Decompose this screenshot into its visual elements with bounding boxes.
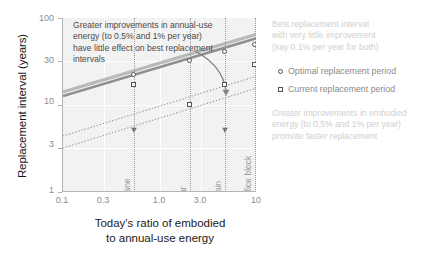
y-tick-mark-1 — [58, 192, 62, 193]
legend-circle-icon — [272, 69, 288, 74]
legend-label-optimal: Optimal replacement period — [288, 66, 396, 76]
x-tick-label-1.0: 1.0 — [139, 195, 179, 205]
legend-label-current: Current replacement period — [288, 84, 395, 94]
legend-item-current[interactable]: Current replacement period — [272, 80, 427, 98]
legend-square-icon — [272, 87, 288, 92]
marker-current-plane[interactable] — [131, 82, 136, 87]
annotation-annual-use-line-1: Greater improvements in annual-use — [73, 20, 248, 31]
legend-item-optimal[interactable]: Optimal replacement period — [272, 62, 427, 80]
y-tick-label-30: 30 — [28, 55, 54, 65]
x-tick-label-0.1: 0.1 — [42, 195, 82, 205]
y-axis-title: Replacement interval (years) — [16, 16, 28, 196]
annotation-annual-use-line-4: intervals — [73, 54, 248, 65]
y-tick-label-3: 3 — [28, 139, 54, 149]
marker-optimal-office-block[interactable] — [252, 42, 256, 47]
annotation-annual-use-energy: Greater improvements in annual-use energ… — [73, 20, 248, 66]
category-label-plane: Plane — [122, 178, 132, 192]
marker-current-train[interactable] — [222, 82, 227, 87]
x-tick-label-3.0: 3.0 — [180, 195, 220, 205]
category-label-train: Train — [213, 181, 223, 192]
marker-optimal-plane[interactable] — [131, 72, 136, 77]
x-tick-label-0.3: 0.3 — [83, 195, 123, 205]
category-label-office-block: Office block — [243, 156, 253, 192]
annotation-best-interval-line-3: (say 0.1% per year for both) — [272, 42, 422, 53]
x-tick-label-10: 10 — [236, 195, 276, 205]
category-label-car: Car — [178, 186, 188, 192]
y-tick-label-100: 100 — [28, 13, 54, 23]
annotation-embodied-line-1: Greater improvements in embodied — [272, 108, 422, 119]
line-current-1pct — [63, 88, 256, 148]
x-axis-title-line-2: to annual-use energy — [62, 231, 258, 246]
marker-current-car[interactable] — [187, 102, 192, 107]
annotation-annual-use-line-2: energy (to 0.5% and 1% per year) — [73, 31, 248, 42]
y-tick-label-1: 1 — [28, 185, 54, 195]
annotation-arrow-head — [223, 90, 230, 96]
annotation-embodied-line-3: promote faster replacement — [272, 131, 422, 142]
annotation-embodied-line-2: energy (to 0.5% and 1% per year) — [272, 119, 422, 130]
y-tick-label-10: 10 — [28, 96, 54, 106]
annotation-best-interval-line-1: Best replacement interval — [272, 19, 422, 30]
annotation-best-interval-line-2: with very little improvement — [272, 30, 422, 41]
x-axis-title: Today's ratio of embodied to annual-use … — [62, 216, 258, 246]
chart-legend: Optimal replacement period Current repla… — [272, 62, 427, 98]
annotation-embodied-energy: Greater improvements in embodied energy … — [272, 108, 422, 142]
x-axis-title-line-1: Today's ratio of embodied — [62, 216, 258, 231]
annotation-annual-use-line-3: have little effect on best replacement — [73, 43, 248, 54]
annotation-best-interval: Best replacement interval with very litt… — [272, 19, 422, 53]
chart-figure: Replacement interval (years) 100 30 10 3… — [0, 0, 429, 254]
marker-current-office-block[interactable] — [252, 62, 256, 67]
